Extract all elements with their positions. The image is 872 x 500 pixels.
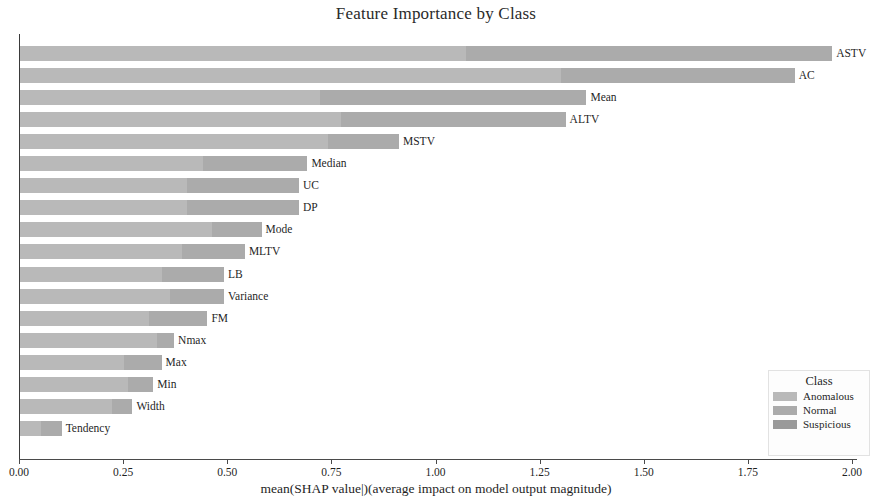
x-axis-tick-label: 1.00: [425, 466, 445, 478]
legend-swatch: [773, 420, 797, 429]
bar-row: AC: [20, 68, 815, 83]
x-axis-tick: [227, 459, 228, 464]
bar-segment-normal: [561, 68, 794, 83]
bar-label: Max: [162, 355, 187, 370]
legend-label: Anomalous: [797, 390, 854, 402]
bar-label: MSTV: [399, 134, 435, 149]
bar-segment-normal: [328, 134, 399, 149]
bar-label: Width: [132, 399, 164, 414]
bar-row: MLTV: [20, 244, 280, 259]
bar-segment-normal: [170, 289, 224, 304]
bar-segment-normal: [157, 333, 174, 348]
bar-row: Tendency: [20, 421, 110, 436]
bar-segment-normal: [320, 90, 587, 105]
x-axis-tick: [644, 459, 645, 464]
bar-segment-normal: [203, 156, 307, 171]
bar-label: Min: [153, 377, 176, 392]
bar-label: Median: [307, 156, 346, 171]
bar-segment-normal: [466, 46, 833, 61]
legend-label: Normal: [797, 404, 837, 416]
bar-row: Variance: [20, 289, 268, 304]
x-axis-tick-label: 1.25: [530, 466, 550, 478]
bar-label: MLTV: [245, 244, 281, 259]
x-axis-tick-label: 0.50: [217, 466, 237, 478]
legend-rows: AnomalousNormalSuspicious: [769, 389, 869, 431]
bar-label: UC: [299, 178, 319, 193]
bar-segment-normal: [124, 355, 161, 370]
bar-segment-anomalous: [20, 399, 112, 414]
bar-label: Nmax: [174, 333, 206, 348]
x-axis-tick-label: 2.00: [842, 466, 862, 478]
legend-item: Anomalous: [769, 389, 869, 403]
bar-row: MSTV: [20, 134, 435, 149]
bar-segment-normal: [182, 244, 244, 259]
x-axis-tick: [852, 459, 853, 464]
x-axis-tick-label: 0.00: [9, 466, 29, 478]
bar-segment-anomalous: [20, 355, 124, 370]
x-axis-label: mean(SHAP value|)(average impact on mode…: [0, 481, 872, 497]
bar-label: Tendency: [62, 421, 111, 436]
x-axis-line: [19, 459, 857, 460]
bar-segment-normal: [341, 112, 566, 127]
x-axis-tick: [540, 459, 541, 464]
legend-item: Suspicious: [769, 417, 869, 431]
bar-segment-anomalous: [20, 267, 162, 282]
bar-segment-anomalous: [20, 377, 128, 392]
bar-row: Nmax: [20, 333, 206, 348]
x-axis-tick-label: 0.75: [321, 466, 341, 478]
bar-segment-normal: [187, 200, 299, 215]
bar-row: DP: [20, 200, 318, 215]
x-axis-tick: [436, 459, 437, 464]
bar-segment-normal: [112, 399, 133, 414]
feature-importance-chart: Feature Importance by Class ASTVACMeanAL…: [0, 0, 872, 500]
bar-row: Min: [20, 377, 176, 392]
bar-label: Mean: [586, 90, 616, 105]
bar-row: Width: [20, 399, 165, 414]
bar-row: LB: [20, 267, 243, 282]
legend: Class AnomalousNormalSuspicious: [768, 370, 870, 456]
bar-segment-normal: [41, 421, 62, 436]
x-axis-tick: [19, 459, 20, 464]
legend-item: Normal: [769, 403, 869, 417]
bar-row: Mode: [20, 222, 292, 237]
bar-segment-anomalous: [20, 421, 41, 436]
bar-segment-anomalous: [20, 156, 203, 171]
bar-segment-normal: [128, 377, 153, 392]
x-axis-tick-label: 1.50: [634, 466, 654, 478]
bar-label: Variance: [224, 289, 268, 304]
x-axis-tick: [331, 459, 332, 464]
legend-swatch: [773, 406, 797, 415]
x-axis-tick-label: 1.75: [738, 466, 758, 478]
bar-segment-anomalous: [20, 200, 187, 215]
bar-segment-normal: [187, 178, 299, 193]
bar-label: AC: [795, 68, 815, 83]
bar-segment-anomalous: [20, 112, 341, 127]
bar-row: ALTV: [20, 112, 599, 127]
bar-segment-normal: [212, 222, 262, 237]
bar-segment-normal: [149, 311, 207, 326]
bar-segment-anomalous: [20, 289, 170, 304]
bar-label: DP: [299, 200, 318, 215]
bar-segment-anomalous: [20, 134, 328, 149]
bar-segment-anomalous: [20, 68, 561, 83]
bar-segment-anomalous: [20, 333, 157, 348]
chart-title: Feature Importance by Class: [0, 4, 872, 24]
bar-label: FM: [207, 311, 228, 326]
bar-segment-anomalous: [20, 222, 212, 237]
bar-row: Mean: [20, 90, 617, 105]
bar-label: ALTV: [566, 112, 600, 127]
bar-segment-anomalous: [20, 311, 149, 326]
bar-label: LB: [224, 267, 243, 282]
bar-label: ASTV: [832, 46, 866, 61]
bar-row: Max: [20, 355, 187, 370]
x-axis-tick-label: 0.25: [113, 466, 133, 478]
bar-row: Median: [20, 156, 347, 171]
legend-label: Suspicious: [797, 418, 851, 430]
x-axis-tick: [123, 459, 124, 464]
legend-title: Class: [769, 371, 869, 389]
bar-segment-anomalous: [20, 244, 182, 259]
legend-swatch: [773, 392, 797, 401]
bar-row: FM: [20, 311, 228, 326]
bar-segment-anomalous: [20, 178, 187, 193]
plot-area: ASTVACMeanALTVMSTVMedianUCDPModeMLTVLBVa…: [19, 34, 872, 459]
